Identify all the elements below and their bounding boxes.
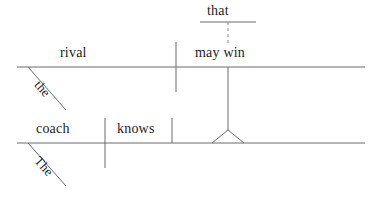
label-upper-subject-rival: rival <box>60 46 87 60</box>
pedestal-left-leg <box>212 130 228 143</box>
label-upper-verb-may-win: may win <box>195 46 245 60</box>
label-lower-verb-knows: knows <box>117 122 155 136</box>
diagram-line-layer <box>0 0 382 199</box>
pedestal-right-leg <box>228 130 244 143</box>
label-lower-subject-coach: coach <box>36 122 70 136</box>
sentence-diagram-canvas: that rival may win the coach knows The <box>0 0 382 199</box>
label-conjunction-that: that <box>207 4 229 18</box>
